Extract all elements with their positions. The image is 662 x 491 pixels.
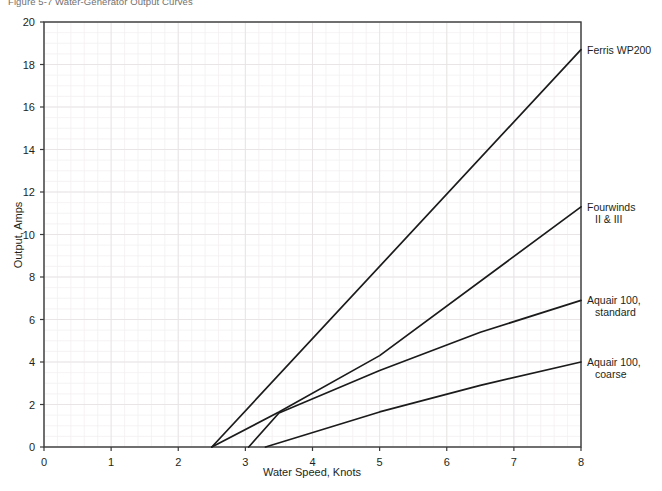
x-tick-label: 5 (377, 456, 383, 468)
x-tick-label: 6 (444, 456, 450, 468)
y-axis-title: Output, Amps (12, 201, 24, 268)
series-label-aquair-100-standard: Aquair 100,standard (587, 294, 641, 318)
axis-ticks (40, 22, 581, 451)
x-tick-label: 7 (511, 456, 517, 468)
series-label-fourwinds-ii-iii: FourwindsII & III (587, 201, 635, 225)
y-tick-label: 16 (23, 101, 35, 113)
series-line-fourwinds-ii-iii (212, 207, 581, 447)
series-label-ferris-wp200: Ferris WP200 (587, 44, 651, 56)
x-tick-label: 2 (175, 456, 181, 468)
x-tick-label: 1 (108, 456, 114, 468)
y-axis-tick-labels: 02468101214161820 (23, 16, 35, 453)
y-tick-label: 12 (23, 186, 35, 198)
y-tick-label: 18 (23, 59, 35, 71)
series-lines (212, 50, 581, 447)
y-tick-label: 14 (23, 144, 35, 156)
y-tick-label: 2 (29, 399, 35, 411)
y-tick-label: 8 (29, 271, 35, 283)
y-tick-label: 20 (23, 16, 35, 28)
x-tick-label: 8 (578, 456, 584, 468)
y-tick-label: 0 (29, 441, 35, 453)
x-tick-label: 3 (242, 456, 248, 468)
x-tick-label: 0 (41, 456, 47, 468)
chart-figure: Figure 5-7 Water-Generator Output Curves… (0, 0, 662, 491)
y-tick-label: 4 (29, 356, 35, 368)
x-axis-title: Water Speed, Knots (263, 466, 362, 478)
series-label-aquair-100-coarse: Aquair 100,coarse (587, 356, 641, 380)
y-tick-label: 10 (23, 229, 35, 241)
series-labels: Ferris WP200FourwindsII & IIIAquair 100,… (587, 44, 651, 380)
figure-caption: Figure 5-7 Water-Generator Output Curves (8, 0, 193, 7)
y-tick-label: 6 (29, 314, 35, 326)
output-curves-chart: 02468101214161820 012345678 Ferris WP200… (0, 0, 662, 491)
